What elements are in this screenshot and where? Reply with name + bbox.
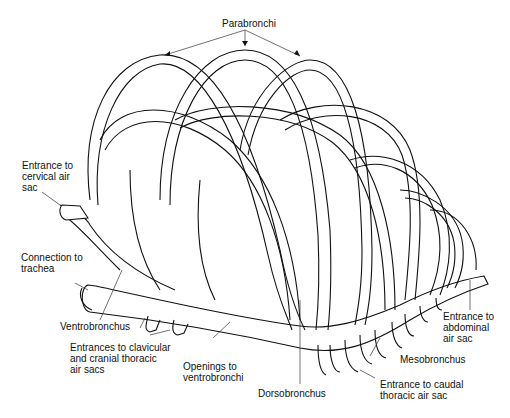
parabronchi-loops — [60, 50, 476, 330]
label-dorsobronchus: Dorsobronchus — [258, 388, 326, 399]
bronchial-diagram: Parabronchi Entrance to cervical air sac… — [0, 0, 510, 418]
label-abdominal-air-sac: Entrance to abdominal air sac — [443, 311, 494, 344]
label-ventrobronchus: Ventrobronchus — [60, 321, 130, 332]
label-mesobronchus: Mesobronchus — [400, 354, 466, 365]
mesobronchus-tube — [80, 276, 488, 351]
cervical-stub — [60, 205, 88, 220]
label-clavicular-air-sacs: Entrances to clavicular and cranial thor… — [70, 342, 171, 375]
label-caudal-air-sac: Entrance to caudal thoracic air sac — [380, 379, 463, 401]
label-parabronchi: Parabronchi — [222, 18, 276, 29]
label-cervical-air-sac: Entrance to cervical air sac — [22, 160, 73, 193]
label-trachea: Connection to trachea — [21, 252, 83, 274]
label-openings-ventrobronchi: Openings to ventrobronchi — [183, 361, 244, 383]
